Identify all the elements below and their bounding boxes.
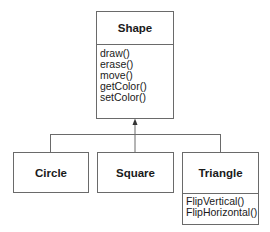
operation-flip-horizontal: FlipHorizontal(): [186, 207, 258, 218]
class-shape-name: Shape: [97, 12, 173, 44]
class-square: Square: [97, 152, 174, 193]
operation-set-color: setColor(): [100, 92, 173, 103]
class-triangle-operations: FlipVertical() FlipHorizontal(): [183, 193, 258, 224]
class-triangle-name: Triangle: [183, 153, 258, 193]
class-circle: Circle: [13, 152, 89, 193]
generalization-arrowhead-icon: [133, 119, 138, 126]
class-square-name: Square: [98, 153, 173, 192]
class-shape: Shape draw() erase() move() getColor() s…: [96, 11, 174, 119]
class-triangle: Triangle FlipVertical() FlipHorizontal(): [182, 152, 259, 225]
class-circle-name: Circle: [14, 153, 88, 192]
class-shape-operations: draw() erase() move() getColor() setColo…: [97, 44, 173, 119]
